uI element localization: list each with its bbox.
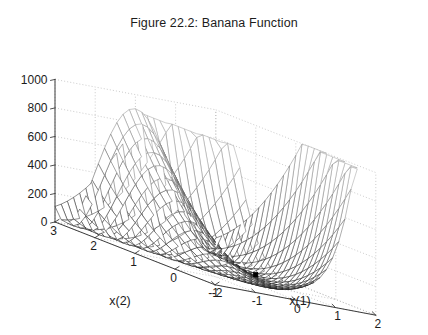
svg-text:200: 200 — [27, 187, 47, 201]
minimum-marker-square — [253, 272, 258, 277]
svg-text:600: 600 — [27, 130, 47, 144]
svg-text:2: 2 — [90, 239, 97, 253]
svg-text:0: 0 — [170, 271, 177, 285]
svg-text:3: 3 — [50, 224, 57, 238]
surface-mesh — [55, 109, 357, 290]
svg-text:1: 1 — [130, 255, 137, 269]
svg-text:-1: -1 — [252, 294, 263, 308]
svg-text:0: 0 — [41, 215, 48, 229]
svg-text:2: 2 — [374, 317, 381, 331]
x1-axis-label: x(1) — [289, 294, 311, 308]
svg-text:800: 800 — [27, 101, 47, 115]
svg-text:400: 400 — [27, 158, 47, 172]
x2-axis-label: x(2) — [109, 294, 131, 308]
surface-plot: 020040060080010003210-1-2-1012 x(2)x(1) — [0, 0, 428, 335]
svg-text:1000: 1000 — [21, 73, 48, 87]
svg-text:1: 1 — [334, 309, 341, 323]
figure-container: Figure 22.2: Banana Function 02004006008… — [0, 0, 428, 335]
svg-text:-2: -2 — [212, 286, 223, 300]
minimum-marker — [253, 272, 258, 277]
